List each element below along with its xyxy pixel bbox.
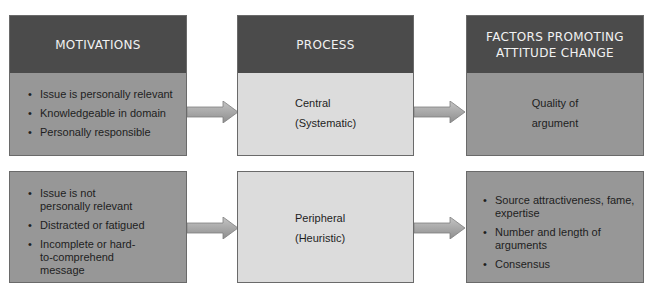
arrow-right-icon	[414, 101, 466, 123]
factors-header: FACTORS PROMOTING ATTITUDE CHANGE	[467, 16, 643, 73]
factors-body-central: Quality of argument	[467, 73, 643, 155]
list-item: Consensus	[473, 258, 638, 271]
list-item: Issue is personally relevant	[18, 88, 173, 101]
motivations-list-peripheral: Issue is not personally relevant Distrac…	[18, 187, 168, 283]
list-item: Source attractiveness, fame, expertise	[473, 194, 638, 220]
process-box-peripheral: Peripheral (Heuristic)	[237, 171, 414, 283]
process-text-central: Central (Systematic)	[295, 93, 356, 133]
arrow-right-icon	[414, 217, 466, 239]
motivations-body-central: Issue is personally relevant Knowledgeab…	[10, 73, 186, 155]
process-text-peripheral: Peripheral (Heuristic)	[295, 208, 345, 248]
factors-header-label: FACTORS PROMOTING ATTITUDE CHANGE	[485, 29, 625, 61]
arrow-right-icon	[187, 101, 239, 123]
factors-text-central: Quality of argument	[467, 93, 643, 133]
factors-box-central: FACTORS PROMOTING ATTITUDE CHANGE Qualit…	[466, 15, 644, 156]
process-box-central: PROCESS Central (Systematic)	[237, 15, 414, 156]
motivations-box-central: MOTIVATIONS Issue is personally relevant…	[9, 15, 187, 156]
list-item: Number and length of arguments	[473, 226, 605, 252]
process-header-label: PROCESS	[296, 37, 354, 53]
list-item: Incomplete or hard-to-comprehend message	[18, 238, 140, 277]
list-item: Distracted or fatigued	[18, 219, 168, 232]
motivations-list-central: Issue is personally relevant Knowledgeab…	[18, 88, 173, 145]
motivations-header: MOTIVATIONS	[10, 16, 186, 73]
factors-list-peripheral: Source attractiveness, fame, expertise N…	[473, 194, 638, 277]
process-body-central: Central (Systematic)	[238, 73, 413, 155]
motivations-header-label: MOTIVATIONS	[55, 37, 141, 53]
list-item: Knowledgeable in domain	[18, 107, 173, 120]
motivations-box-peripheral: Issue is not personally relevant Distrac…	[9, 171, 187, 283]
arrow-right-icon	[187, 217, 239, 239]
process-header: PROCESS	[238, 16, 413, 73]
list-item: Personally responsible	[18, 126, 173, 139]
factors-box-peripheral: Source attractiveness, fame, expertise N…	[466, 171, 644, 283]
list-item: Issue is not personally relevant	[18, 187, 135, 213]
